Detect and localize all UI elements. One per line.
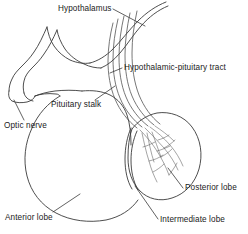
label-hypothalamic-pituitary-tract: Hypothalamic-pituitary tract <box>124 64 226 72</box>
pituitary-diagram: Hypothalamus Hypothalamic-pituitary trac… <box>0 0 248 234</box>
leader-stalk <box>95 86 115 100</box>
diagram-linework <box>0 0 248 234</box>
leader-posterior-lobe <box>168 168 183 188</box>
leader-hypothalamus <box>113 9 145 26</box>
leader-lines <box>14 9 183 219</box>
leader-intermediate-lobe <box>135 186 158 219</box>
label-pituitary-stalk: Pituitary stalk <box>51 101 101 109</box>
label-anterior-lobe: Anterior lobe <box>5 214 53 222</box>
intermediate-lobe-outline <box>125 128 138 190</box>
label-hypothalamus: Hypothalamus <box>58 5 112 13</box>
label-optic-nerve: Optic nerve <box>4 122 47 130</box>
label-posterior-lobe: Posterior lobe <box>185 184 237 192</box>
leader-anterior-lobe <box>53 194 80 212</box>
posterior-lobe-fiber-network <box>140 126 183 182</box>
optic-chiasm-outline <box>9 27 101 103</box>
label-intermediate-lobe: Intermediate lobe <box>160 216 225 224</box>
